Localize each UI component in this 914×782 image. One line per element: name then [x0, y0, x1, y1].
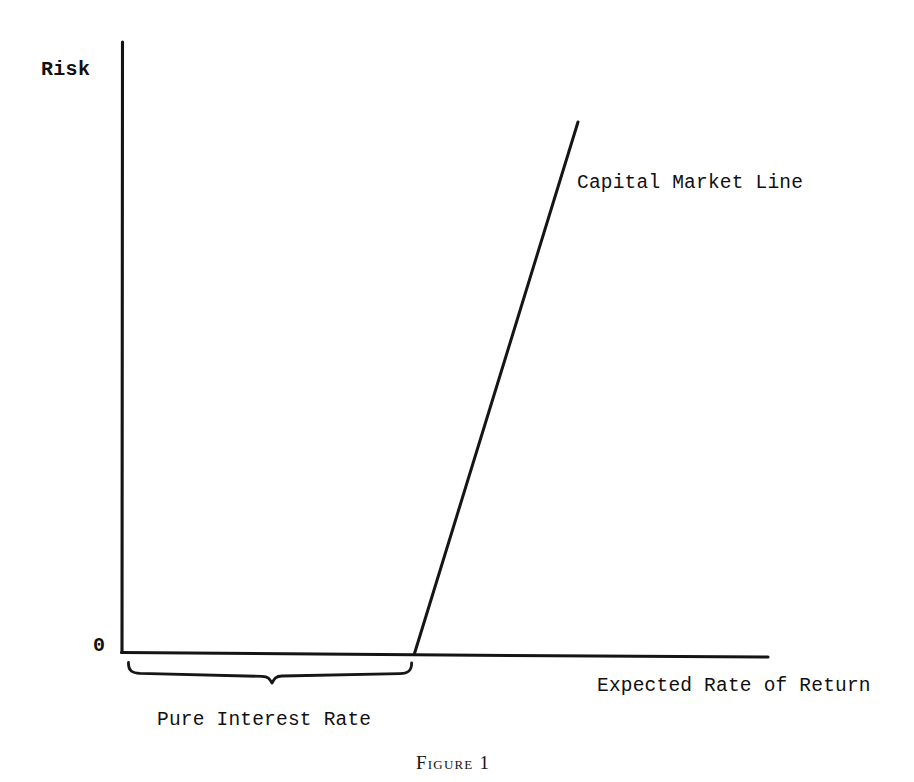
capital-market-line-label: Capital Market Line	[577, 174, 803, 194]
figure-caption: Figure 1	[416, 753, 490, 772]
figure-canvas: Risk 0 Capital Market Line Expected Rate…	[0, 0, 914, 782]
chart-vector-layer	[0, 0, 914, 782]
pure-interest-rate-label: Pure Interest Rate	[157, 711, 371, 731]
capital-market-line-series	[415, 122, 579, 654]
pure-interest-rate-brace	[128, 663, 411, 684]
x-axis-title: Expected Rate of Return	[597, 677, 871, 697]
origin-tick-label: 0	[93, 636, 105, 656]
y-axis-title: Risk	[41, 60, 90, 80]
x-axis-line	[122, 653, 769, 658]
y-axis-line	[122, 42, 123, 653]
